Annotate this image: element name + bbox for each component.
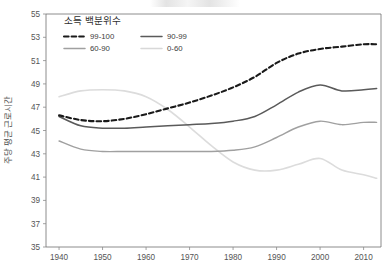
- line-chart: 3537394143454749515355 19401950196019701…: [0, 0, 387, 276]
- x-tick-label: 1980: [224, 253, 243, 262]
- y-tick-label: 35: [31, 243, 41, 252]
- x-axis-ticks: 19401950196019701980199020002010: [50, 247, 373, 262]
- x-tick-label: 1970: [180, 253, 199, 262]
- series-line-99-100: [59, 44, 377, 121]
- y-tick-label: 39: [31, 196, 41, 205]
- y-tick-label: 37: [31, 220, 41, 229]
- x-tick-label: 1960: [137, 253, 156, 262]
- x-tick-label: 1990: [267, 253, 286, 262]
- chart-legend: 소득 백분위수99-10090-9960-900-60: [64, 15, 187, 53]
- x-tick-label: 2010: [354, 253, 373, 262]
- series-line-0-60: [59, 90, 377, 179]
- series-lines: [59, 44, 377, 178]
- y-axis-ticks: 3537394143454749515355: [31, 10, 46, 252]
- x-tick-label: 1940: [50, 253, 69, 262]
- y-tick-label: 49: [31, 80, 41, 89]
- y-tick-label: 43: [31, 150, 41, 159]
- y-tick-label: 51: [31, 57, 41, 66]
- y-tick-label: 45: [31, 127, 41, 136]
- x-tick-label: 1950: [93, 253, 112, 262]
- y-tick-label: 47: [31, 103, 41, 112]
- legend-label-99-100: 99-100: [90, 32, 115, 41]
- cropped-title-remnant: [150, 0, 240, 7]
- x-tick-label: 2000: [311, 253, 330, 262]
- series-line-60-90: [59, 121, 377, 151]
- chart-container: 3537394143454749515355 19401950196019701…: [0, 0, 387, 276]
- y-tick-label: 53: [31, 33, 41, 42]
- y-axis-title: 주당 평균 근로시간: [3, 96, 13, 165]
- y-tick-label: 55: [31, 10, 41, 19]
- legend-label-90-99: 90-99: [167, 32, 187, 41]
- legend-title: 소득 백분위수: [64, 15, 121, 26]
- y-tick-label: 41: [31, 173, 41, 182]
- legend-label-60-90: 60-90: [90, 44, 111, 53]
- legend-label-0-60: 0-60: [167, 44, 183, 53]
